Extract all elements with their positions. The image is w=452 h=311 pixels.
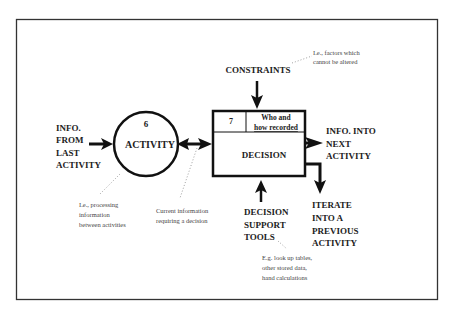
svg-text:LAST: LAST	[56, 148, 80, 158]
svg-text:hand calculations: hand calculations	[262, 274, 308, 281]
iterate-arrow	[305, 164, 326, 194]
leader-support-tools	[278, 241, 287, 249]
svg-text:Current information: Current information	[156, 207, 209, 214]
leader-constraints	[292, 56, 312, 63]
svg-text:ACTIVITY: ACTIVITY	[312, 238, 358, 248]
svg-text:ACTIVITY: ACTIVITY	[56, 160, 102, 170]
svg-text:INFO. INTO: INFO. INTO	[326, 126, 376, 136]
decision-number: 7	[229, 117, 233, 126]
svg-text:information: information	[79, 211, 110, 218]
double-arrow-activity-decision	[177, 138, 212, 150]
decision-label: DECISION	[242, 150, 287, 160]
svg-text:I.e., processing: I.e., processing	[79, 201, 119, 208]
support-tools-arrow	[255, 180, 267, 202]
note-support-tools: E.g. look up tables, other stored data, …	[262, 254, 313, 281]
label-info-from-last: INFO. FROM LAST ACTIVITY	[56, 123, 102, 170]
leader-activity	[100, 174, 120, 194]
note-activity: I.e., processing information between act…	[79, 201, 126, 228]
note-constraints: I.e., factors which cannot be altered	[313, 49, 360, 65]
output-arrow-next	[305, 137, 323, 149]
svg-text:NEXT: NEXT	[326, 139, 351, 149]
svg-text:cannot be altered: cannot be altered	[313, 58, 358, 65]
svg-text:SUPPORT: SUPPORT	[244, 220, 286, 230]
label-constraints: CONSTRAINTS	[225, 65, 290, 75]
decision-node: 7 Who and how recorded DECISION	[213, 111, 305, 176]
note-current-info: Current information requiring a decision	[156, 207, 209, 224]
svg-text:I.e., factors which: I.e., factors which	[313, 49, 360, 56]
svg-text:PREVIOUS: PREVIOUS	[312, 226, 359, 236]
svg-text:ACTIVITY: ACTIVITY	[326, 151, 372, 161]
activity-node: 6 ACTIVITY	[114, 112, 178, 176]
svg-text:between activities: between activities	[79, 221, 126, 228]
svg-text:INFO.: INFO.	[56, 123, 81, 133]
label-info-into-next: INFO. INTO NEXT ACTIVITY	[326, 126, 376, 161]
svg-text:FROM: FROM	[56, 135, 84, 145]
svg-text:DECISION: DECISION	[244, 207, 289, 217]
activity-label: ACTIVITY	[125, 139, 176, 150]
activity-number: 6	[144, 119, 149, 129]
input-arrow-from-last	[89, 138, 113, 150]
decision-box	[213, 111, 305, 176]
label-decision-support-tools: DECISION SUPPORT TOOLS	[244, 207, 289, 242]
process-decision-diagram: 6 ACTIVITY 7 Who and how recorded DECISI…	[0, 0, 452, 311]
svg-text:ITERATE: ITERATE	[312, 200, 352, 210]
constraints-arrow	[251, 81, 263, 109]
svg-text:INTO A: INTO A	[312, 213, 344, 223]
decision-header-line1: Who and	[261, 113, 291, 122]
svg-text:other stored data,: other stored data,	[262, 264, 307, 271]
decision-header-line2: how recorded	[254, 123, 299, 132]
svg-text:E.g. look up tables,: E.g. look up tables,	[262, 254, 313, 261]
svg-text:requiring a decision: requiring a decision	[156, 217, 208, 224]
leader-current-info	[180, 148, 197, 198]
svg-text:TOOLS: TOOLS	[244, 232, 275, 242]
label-iterate: ITERATE INTO A PREVIOUS ACTIVITY	[312, 200, 359, 248]
